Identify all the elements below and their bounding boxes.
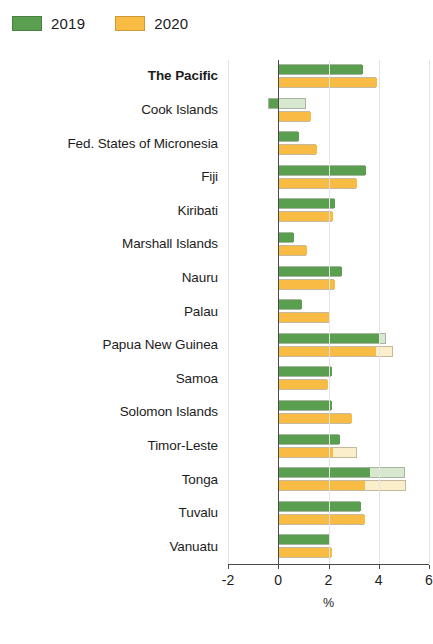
bar-fill	[279, 468, 369, 477]
chart-row: Timor-Leste	[0, 430, 429, 464]
bar-2019	[278, 131, 298, 142]
bar-fill	[279, 233, 294, 242]
tick-mark	[278, 565, 279, 569]
chart-row: Tuvalu	[0, 497, 429, 531]
tick-mark	[429, 565, 430, 569]
category-label: Marshall Islands	[0, 237, 228, 252]
bar-fill	[279, 401, 332, 410]
bar-fill	[279, 267, 342, 276]
bar-fill	[279, 380, 328, 389]
gridline	[429, 60, 430, 564]
category-label: Cook Islands	[0, 103, 228, 118]
chart-row: Fiji	[0, 161, 429, 195]
bar-fill	[279, 280, 334, 289]
category-label: Timor-Leste	[0, 439, 228, 454]
bar-2019	[278, 299, 301, 310]
bar-2020	[278, 413, 351, 424]
bar-fill	[279, 166, 366, 175]
bar-2020	[278, 245, 306, 256]
chart-row: The Pacific	[0, 60, 429, 94]
bar-fill	[279, 145, 317, 154]
bar-2019	[278, 64, 362, 75]
legend-swatch-2019	[12, 16, 42, 31]
bar-2019	[278, 333, 386, 344]
chart-row: Kiribati	[0, 194, 429, 228]
bar-2020	[278, 312, 328, 323]
bar-fill	[279, 515, 364, 524]
category-label: Palau	[0, 305, 228, 320]
bar-fill	[279, 112, 310, 121]
bar-2020	[278, 447, 357, 458]
bar-fill	[279, 367, 332, 376]
tick-mark	[379, 565, 380, 569]
bar-fill	[279, 300, 302, 309]
bar-chart: The PacificCook IslandsFed. States of Mi…	[0, 46, 429, 644]
chart-row: Samoa	[0, 362, 429, 396]
category-label: Solomon Islands	[0, 405, 228, 420]
bar-2020	[278, 111, 309, 122]
chart-row: Tonga	[0, 463, 429, 497]
category-label: Vanuatu	[0, 540, 228, 555]
bar-2019	[278, 165, 365, 176]
chart-row: Marshall Islands	[0, 228, 429, 262]
legend-label-2020: 2020	[154, 15, 188, 32]
chart-row: Fed. States of Micronesia	[0, 127, 429, 161]
bar-2019	[278, 434, 338, 445]
legend-swatch-2020	[115, 16, 145, 31]
x-axis-tick-label: 4	[375, 572, 383, 588]
bar-fill	[279, 548, 332, 557]
legend-entry-2019: 2019	[12, 15, 85, 32]
category-label: Tonga	[0, 473, 228, 488]
bar-2019	[278, 266, 341, 277]
chart-rows: The PacificCook IslandsFed. States of Mi…	[0, 60, 429, 564]
category-label: Papua New Guinea	[0, 338, 228, 353]
chart-row: Nauru	[0, 262, 429, 296]
bar-2019	[278, 467, 405, 478]
bar-fill	[279, 246, 307, 255]
gridline	[379, 60, 380, 564]
x-axis-tick-label: 0	[274, 572, 282, 588]
category-label: Fiji	[0, 170, 228, 185]
bar-2020	[278, 346, 392, 357]
chart-row: Vanuatu	[0, 530, 429, 564]
category-label: The Pacific	[0, 69, 228, 84]
bar-2020	[278, 144, 316, 155]
category-label: Kiribati	[0, 204, 228, 219]
chart-row: Papua New Guinea	[0, 329, 429, 363]
bar-2019	[278, 534, 328, 545]
bar-2019	[278, 198, 333, 209]
x-axis-tick-label: 2	[325, 572, 333, 588]
x-axis-tick-label: -2	[222, 572, 234, 588]
chart-legend: 2019 2020	[0, 0, 429, 46]
tick-mark	[228, 565, 229, 569]
legend-label-2019: 2019	[51, 15, 85, 32]
bar-fill	[279, 448, 333, 457]
legend-entry-2020: 2020	[115, 15, 188, 32]
category-label: Samoa	[0, 372, 228, 387]
bar-2019	[268, 98, 306, 109]
chart-row: Cook Islands	[0, 94, 429, 128]
bar-fill	[279, 179, 357, 188]
x-axis-tick-label: 6	[425, 572, 433, 588]
bar-fill	[279, 414, 352, 423]
bar-fill	[279, 334, 380, 343]
bar-2020	[278, 547, 331, 558]
category-label: Fed. States of Micronesia	[0, 137, 228, 152]
bar-2020	[278, 480, 406, 491]
bar-fill	[279, 435, 339, 444]
bar-2020	[278, 77, 376, 88]
bar-2020	[278, 514, 363, 525]
bar-fill	[279, 212, 333, 221]
bar-fill	[279, 199, 334, 208]
category-label: Tuvalu	[0, 506, 228, 521]
bar-2020	[278, 211, 332, 222]
chart-row: Palau	[0, 295, 429, 329]
chart-row: Solomon Islands	[0, 396, 429, 430]
bar-fill	[279, 313, 329, 322]
bar-2019	[278, 366, 331, 377]
bar-2019	[278, 400, 331, 411]
bar-fill	[279, 535, 329, 544]
x-axis-title: %	[323, 596, 334, 610]
bar-fill	[279, 65, 363, 74]
bar-2020	[278, 379, 327, 390]
